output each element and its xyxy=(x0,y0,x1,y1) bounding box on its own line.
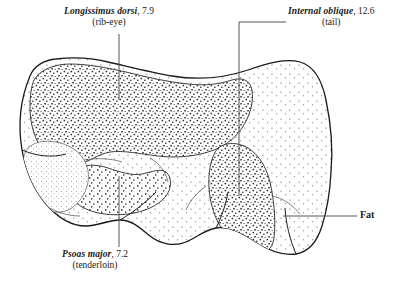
callout-psoas-value: 7.2 xyxy=(116,249,128,259)
callout-psoas-line1: Psoas major, 7.2 xyxy=(62,249,128,260)
callout-internal-oblique: Internal oblique, 12.6 (tail) xyxy=(288,6,375,28)
callout-psoas-major: Psoas major, 7.2 (tenderloin) xyxy=(62,249,128,271)
callout-longissimus-value: 7.9 xyxy=(142,6,154,16)
callout-internal-oblique-common: (tail) xyxy=(288,17,375,28)
callout-psoas-common: (tenderloin) xyxy=(62,260,128,271)
callout-longissimus-species: Longissimus dorsi xyxy=(64,6,137,16)
callout-psoas-species: Psoas major xyxy=(62,249,111,259)
beef-cut-cross-section-figure xyxy=(0,0,398,292)
callout-internal-oblique-value: 12.6 xyxy=(358,6,375,16)
callout-longissimus-line1: Longissimus dorsi, 7.9 xyxy=(64,6,154,17)
callout-internal-oblique-species: Internal oblique xyxy=(288,6,353,16)
callout-internal-oblique-line1: Internal oblique, 12.6 xyxy=(288,6,375,17)
callout-longissimus-dorsi: Longissimus dorsi, 7.9 (rib-eye) xyxy=(64,6,154,28)
callout-fat: Fat xyxy=(360,209,374,221)
callout-longissimus-common: (rib-eye) xyxy=(64,17,154,28)
